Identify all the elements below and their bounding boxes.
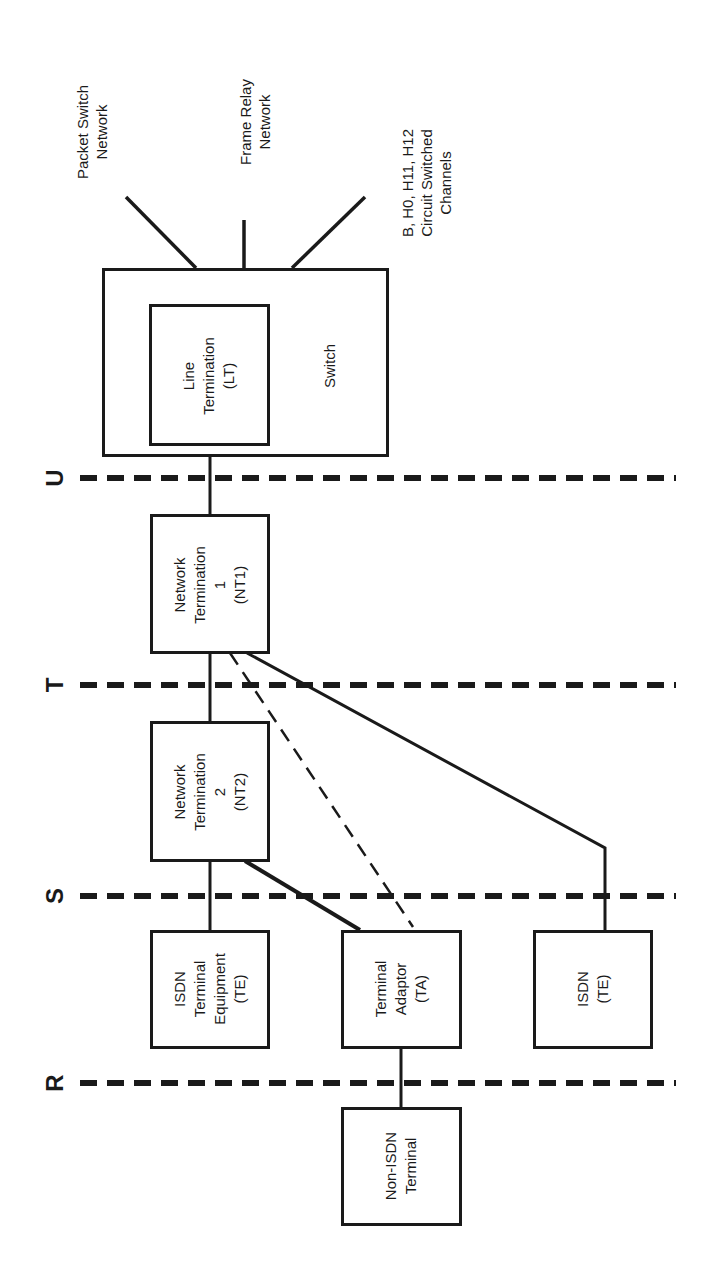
label-packet-switch-network: Packet Switch Network xyxy=(70,62,114,202)
ref-label-r: R xyxy=(40,1068,70,1098)
label-frame-relay-network: Frame Relay Network xyxy=(233,62,277,182)
nt1-label: Network Termination 1 (NT1) xyxy=(169,525,251,645)
ref-label-s: S xyxy=(40,881,70,911)
ref-label-u: U xyxy=(40,463,70,493)
ref-label-t: T xyxy=(40,670,70,700)
label-circuit-switched-channels: B, H0, H11, H12 Circuit Switched Channel… xyxy=(395,101,457,265)
link-circuit-switched xyxy=(292,197,365,268)
line-termination-label: Line Termination (LT) xyxy=(178,306,240,446)
isdn-te-label: ISDN Terminal Equipment (TE) xyxy=(169,931,251,1047)
isdn-te2-label: ISDN (TE) xyxy=(572,949,614,1029)
terminal-adaptor-label: Terminal Adaptor (TA) xyxy=(370,939,432,1039)
link-packet-switch xyxy=(126,197,196,268)
link-nt1-isdn-te xyxy=(247,653,605,930)
link-nt2-ta xyxy=(245,861,360,930)
switch-label: Switch xyxy=(310,316,350,416)
non-isdn-terminal-label: Non-ISDN Terminal xyxy=(380,1116,422,1216)
nt2-label: Network Termination 2 (NT2) xyxy=(169,732,251,852)
